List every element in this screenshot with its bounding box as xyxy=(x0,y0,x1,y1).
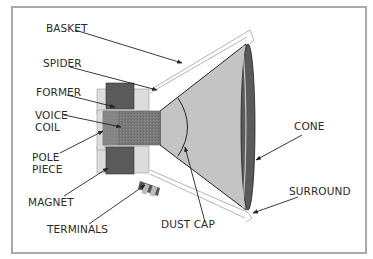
terminals-leader xyxy=(89,185,145,224)
label-cone: CONE xyxy=(294,120,325,132)
surround xyxy=(241,44,255,210)
label-voice-coil-line1: VOICE xyxy=(35,109,68,121)
label-basket: BASKET xyxy=(46,22,88,34)
cone-leader xyxy=(256,135,302,160)
label-pole-piece-line2: PIECE xyxy=(32,163,63,175)
label-magnet: MAGNET xyxy=(28,196,74,208)
magnet-leader xyxy=(64,168,108,196)
pole-piece-leader xyxy=(60,131,103,153)
voice-coil xyxy=(103,111,160,145)
terminals xyxy=(138,181,160,197)
label-former: FORMER xyxy=(36,86,81,98)
surround-leader xyxy=(253,197,298,213)
label-dust-cap: DUST CAP xyxy=(161,218,215,230)
label-spider: SPIDER xyxy=(43,57,82,69)
label-pole-piece-line1: POLE xyxy=(32,151,59,163)
label-terminals: TERMINALS xyxy=(47,223,108,235)
label-surround: SURROUND xyxy=(289,185,351,197)
basket-leader xyxy=(75,30,182,63)
label-voice-coil-line2: COIL xyxy=(35,121,60,133)
